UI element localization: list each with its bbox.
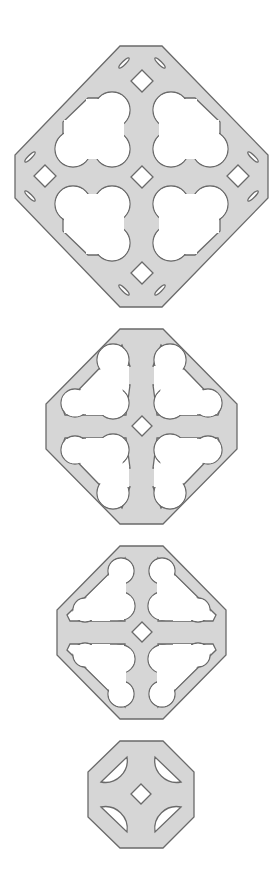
panel-4	[88, 741, 194, 848]
panel-2	[46, 329, 237, 524]
panel-1	[15, 46, 268, 307]
panel-figure	[0, 0, 276, 888]
panel-3	[57, 546, 226, 719]
